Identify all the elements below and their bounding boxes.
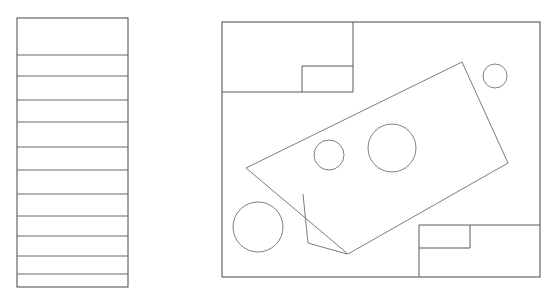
drawing-root <box>0 0 553 307</box>
layered-column-outline <box>17 18 128 287</box>
left-panel-group <box>17 18 128 287</box>
layered-column-dividers <box>17 55 128 274</box>
notch-polyline <box>303 194 347 254</box>
technical-drawing-canvas <box>0 0 553 307</box>
top-left-inner-block <box>302 66 353 92</box>
right-panel-group <box>222 22 540 277</box>
circle-medium-mid <box>368 124 416 172</box>
plan-view-outline <box>222 22 540 277</box>
circle-top-right <box>483 64 507 88</box>
circle-bottom-left <box>233 202 283 252</box>
top-left-block <box>222 22 353 92</box>
bottom-right-block <box>419 225 540 277</box>
bottom-right-inner-block <box>419 225 470 248</box>
circle-small-mid <box>314 140 344 170</box>
